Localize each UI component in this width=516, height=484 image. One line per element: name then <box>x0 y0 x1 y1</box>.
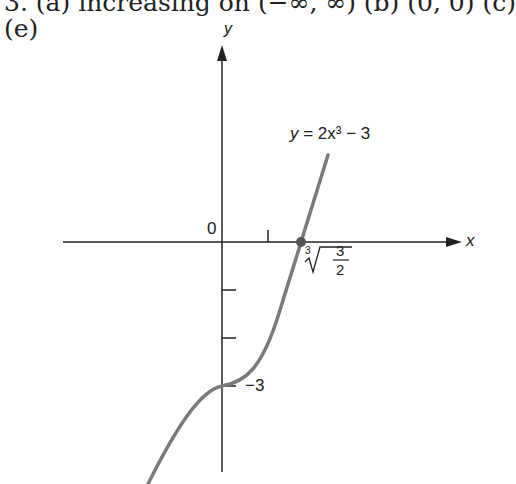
root-denominator: 2 <box>336 261 344 278</box>
y-intercept-label: −3 <box>245 376 264 396</box>
equation-label: y = 2x³ − 3 <box>290 124 370 144</box>
root-index: 3 <box>305 245 311 256</box>
origin-label: 0 <box>207 219 216 239</box>
x-axis-arrow-icon <box>446 237 462 247</box>
y-axis-label: y <box>224 20 232 38</box>
curve <box>148 155 328 484</box>
equation-y: y <box>290 124 299 143</box>
root-numerator: 3 <box>336 242 344 259</box>
x-axis-label: x <box>466 231 475 251</box>
y-axis-arrow-icon <box>217 45 227 61</box>
equation-rest: = 2x³ − 3 <box>299 124 371 143</box>
